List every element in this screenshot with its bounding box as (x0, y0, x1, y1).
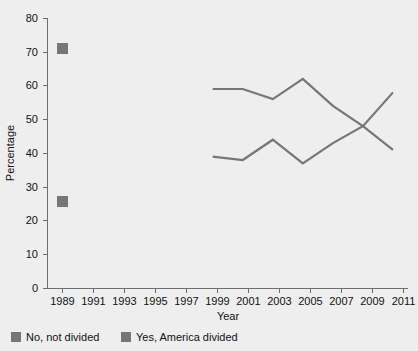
y-tick-label-10: 10 (26, 248, 38, 260)
x-tick-label-2005: 2005 (298, 295, 322, 307)
x-tick-label-1989: 1989 (50, 295, 74, 307)
x-tick-label-2007: 2007 (329, 295, 353, 307)
legend-item-yes-america-divided[interactable]: Yes, America divided (121, 331, 238, 343)
line-chart: 0 10 20 30 40 50 60 70 80 Percentage (0, 0, 418, 351)
legend: No, not divided Yes, America divided (11, 331, 238, 343)
chart-container: 0 10 20 30 40 50 60 70 80 Percentage (0, 0, 418, 351)
y-tick-label-20: 20 (26, 214, 38, 226)
legend-swatch-no-not-divided (11, 332, 21, 342)
x-tick-label-1991: 1991 (81, 295, 105, 307)
legend-label-no-not-divided: No, not divided (26, 331, 99, 343)
x-tick-label-2003: 2003 (267, 295, 291, 307)
x-tick-label-2009: 2009 (360, 295, 384, 307)
x-tick-label-2011: 2011 (392, 295, 416, 307)
data-point-1989-yes (57, 196, 68, 207)
x-tick-label-2001: 2001 (236, 295, 260, 307)
y-tick-label-80: 80 (26, 12, 38, 24)
y-tick-label-50: 50 (26, 113, 38, 125)
legend-label-yes-america-divided: Yes, America divided (136, 331, 238, 343)
y-tick-label-0: 0 (32, 282, 38, 294)
y-tick-label-70: 70 (26, 46, 38, 58)
x-tick-label-1995: 1995 (143, 295, 167, 307)
y-tick-label-60: 60 (26, 79, 38, 91)
y-axis-title: Percentage (4, 125, 16, 181)
y-tick-labels: 0 10 20 30 40 50 60 70 80 (26, 12, 38, 294)
x-tick-label-1993: 1993 (112, 295, 136, 307)
y-tick-label-30: 30 (26, 181, 38, 193)
data-point-1989-no (57, 43, 68, 54)
x-tick-label-1999: 1999 (205, 295, 229, 307)
y-tick-label-40: 40 (26, 147, 38, 159)
x-axis-title: Year (217, 310, 240, 322)
x-tick-label-1997: 1997 (174, 295, 198, 307)
legend-swatch-yes-america-divided (121, 332, 131, 342)
